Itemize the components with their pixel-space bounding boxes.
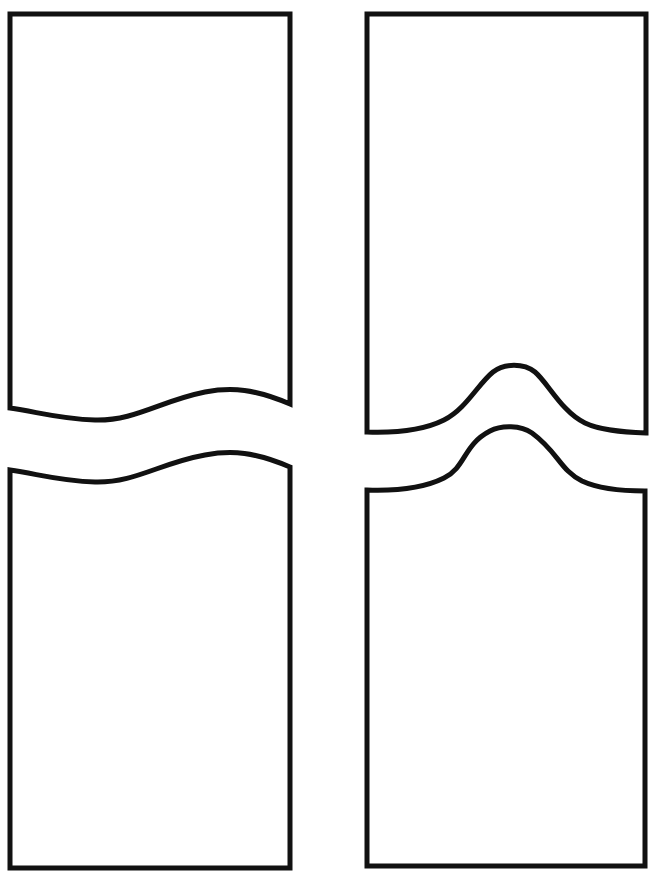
shape-bottom-right[interactable] (367, 427, 645, 866)
shape-bottom-left[interactable] (10, 453, 290, 868)
shapes-drawing (0, 0, 667, 879)
worksheet-canvas (0, 0, 667, 879)
shape-top-left[interactable] (10, 14, 290, 420)
